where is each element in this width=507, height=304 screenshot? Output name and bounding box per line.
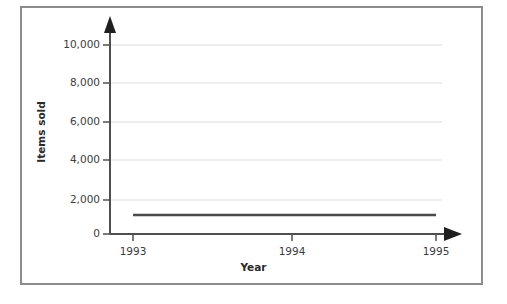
- x-tick-label-1993: 1993: [103, 246, 163, 257]
- x-axis-tick-labels: 1993 1994 1995: [22, 8, 485, 287]
- x-tick-label-1994: 1994: [262, 246, 322, 257]
- x-axis-title: Year: [22, 261, 485, 273]
- x-tick-label-1995: 1995: [406, 246, 466, 257]
- figure-frame: 10,000 8,000 6,000 4,000 2,000 0 1993 19…: [20, 6, 483, 285]
- y-axis-title: Items sold: [35, 87, 47, 177]
- chart-plot-area: 10,000 8,000 6,000 4,000 2,000 0 1993 19…: [22, 8, 485, 287]
